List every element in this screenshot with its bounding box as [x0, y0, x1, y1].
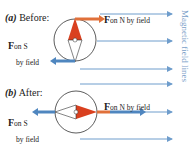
panel-b-title: (b) After:: [5, 88, 43, 98]
field-lines: [80, 14, 172, 139]
force-s-label-b: Fon Sby field: [8, 113, 39, 145]
force-n-label-b: Fon N by field: [104, 97, 150, 113]
compass-before: [50, 15, 105, 65]
force-n-label-a: Fon N by field: [104, 10, 150, 26]
panel-a-title: (a) Before:: [5, 13, 49, 23]
magnetic-field-lines-label: Magnetic field lines: [180, 10, 190, 82]
force-s-label-a: Fon Sby field: [8, 36, 39, 68]
